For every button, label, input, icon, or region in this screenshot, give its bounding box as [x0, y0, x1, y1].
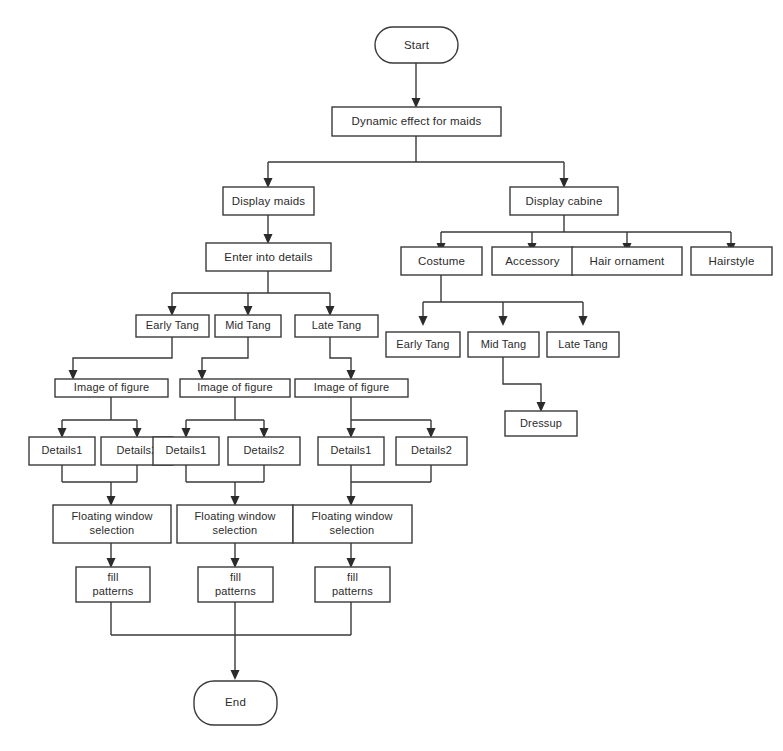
- display-cabine-label: Display cabine: [526, 195, 603, 207]
- edge-left-late-to-image3: [330, 337, 351, 372]
- node-accessory[interactable]: Accessory: [492, 247, 573, 275]
- costume-label: Costume: [418, 255, 465, 267]
- floating-window-2-label-line1: Floating window: [194, 510, 275, 522]
- start-label: Start: [404, 39, 430, 51]
- edge-image3-split: [351, 397, 431, 430]
- edge-fill-merge-to-end: [111, 602, 351, 672]
- node-details1-a[interactable]: Details1: [29, 437, 95, 465]
- node-details1-b[interactable]: Details1: [153, 437, 219, 465]
- node-enter-into-details[interactable]: Enter into details: [206, 243, 331, 271]
- dressup-label: Dressup: [520, 417, 562, 429]
- fill-patterns-3-label-line2: patterns: [332, 585, 373, 597]
- accessory-label: Accessory: [505, 255, 559, 267]
- edge-image1-split: [62, 397, 137, 430]
- node-details2-b[interactable]: Details2: [228, 437, 300, 465]
- node-display-cabine[interactable]: Display cabine: [510, 187, 618, 215]
- edge-details-b-merge: [186, 465, 264, 498]
- edge-left-early-to-image1: [73, 337, 172, 372]
- right-late-tang-label: Late Tang: [558, 338, 607, 350]
- left-mid-tang-label: Mid Tang: [225, 319, 271, 331]
- node-costume[interactable]: Costume: [401, 247, 482, 275]
- edge-left-mid-to-image2: [202, 337, 248, 372]
- arrowhead-right-late-tang: [579, 316, 588, 326]
- fill-patterns-1-label-line2: patterns: [93, 585, 134, 597]
- fill-patterns-3-label-line1: fill: [347, 571, 358, 583]
- edge-costume-split: [423, 275, 583, 318]
- floating-window-3-label-line2: selection: [330, 524, 375, 536]
- details2-b-label: Details2: [244, 444, 285, 456]
- left-early-tang-label: Early Tang: [146, 319, 199, 331]
- node-image-figure-2[interactable]: Image of figure: [180, 379, 290, 397]
- display-maids-label: Display maids: [232, 195, 306, 207]
- fill-patterns-2-label-line1: fill: [230, 571, 241, 583]
- image-figure-2-label: Image of figure: [197, 381, 273, 393]
- details1-a-label: Details1: [42, 444, 83, 456]
- floating-window-2-label-line2: selection: [213, 524, 258, 536]
- node-dynamic-effect[interactable]: Dynamic effect for maids: [332, 107, 501, 136]
- hairstyle-label: Hairstyle: [708, 255, 754, 267]
- node-image-figure-3[interactable]: Image of figure: [295, 379, 408, 397]
- node-hairstyle[interactable]: Hairstyle: [691, 247, 772, 275]
- image-figure-3-label: Image of figure: [314, 381, 390, 393]
- node-fill-patterns-3[interactable]: fill patterns: [315, 567, 390, 602]
- hair-ornament-label: Hair ornament: [590, 255, 665, 267]
- dynamic-effect-label: Dynamic effect for maids: [352, 115, 482, 127]
- edge-layer: [58, 63, 736, 680]
- node-layer: Start Dynamic effect for maids Display m…: [29, 27, 772, 725]
- node-left-late-tang[interactable]: Late Tang: [295, 315, 378, 337]
- node-left-early-tang[interactable]: Early Tang: [136, 315, 209, 337]
- edge-details-c-merge: [351, 465, 431, 498]
- node-floating-window-2[interactable]: Floating window selection: [177, 505, 293, 543]
- fill-patterns-2-label-line2: patterns: [215, 585, 256, 597]
- floating-window-1-label-line1: Floating window: [71, 510, 152, 522]
- edge-details-a-merge: [62, 465, 137, 498]
- details2-c-label: Details2: [411, 444, 452, 456]
- node-image-figure-1[interactable]: Image of figure: [55, 379, 168, 397]
- node-floating-window-1[interactable]: Floating window selection: [53, 505, 171, 543]
- node-fill-patterns-2[interactable]: fill patterns: [198, 567, 273, 602]
- node-fill-patterns-1[interactable]: fill patterns: [76, 567, 150, 602]
- image-figure-1-label: Image of figure: [74, 381, 150, 393]
- edge-right-mid-tang-to-dressup: [503, 357, 541, 404]
- node-start[interactable]: Start: [375, 27, 458, 63]
- fill-patterns-1-label-line1: fill: [108, 571, 119, 583]
- node-left-mid-tang[interactable]: Mid Tang: [215, 315, 281, 337]
- node-right-early-tang[interactable]: Early Tang: [386, 332, 460, 357]
- node-end[interactable]: End: [194, 681, 277, 725]
- details1-b-label: Details1: [166, 444, 207, 456]
- floating-window-3-label-line1: Floating window: [311, 510, 392, 522]
- flowchart-canvas: Start Dynamic effect for maids Display m…: [0, 0, 783, 751]
- node-display-maids[interactable]: Display maids: [223, 187, 314, 215]
- details1-c-label: Details1: [331, 444, 372, 456]
- edge-cabine-split: [441, 215, 731, 245]
- enter-into-details-label: Enter into details: [224, 251, 312, 263]
- end-label: End: [225, 696, 246, 708]
- edge-details-split: [172, 271, 330, 308]
- node-right-mid-tang[interactable]: Mid Tang: [468, 332, 539, 357]
- left-late-tang-label: Late Tang: [312, 319, 361, 331]
- edge-dynamic-split: [268, 136, 564, 180]
- node-details2-c[interactable]: Details2: [396, 437, 467, 465]
- node-right-late-tang[interactable]: Late Tang: [547, 332, 619, 357]
- details2-a-label: Details2: [117, 444, 158, 456]
- node-dressup[interactable]: Dressup: [505, 411, 577, 436]
- edge-image2-split: [186, 397, 264, 430]
- node-details1-c[interactable]: Details1: [318, 437, 384, 465]
- arrowhead-end: [231, 670, 240, 680]
- floating-window-1-label-line2: selection: [90, 524, 135, 536]
- arrowhead-right-early-tang: [419, 316, 428, 326]
- right-early-tang-label: Early Tang: [396, 338, 449, 350]
- right-mid-tang-label: Mid Tang: [481, 338, 527, 350]
- arrowhead-right-mid-tang: [499, 316, 508, 326]
- node-hair-ornament[interactable]: Hair ornament: [572, 247, 682, 275]
- node-floating-window-3[interactable]: Floating window selection: [293, 505, 412, 543]
